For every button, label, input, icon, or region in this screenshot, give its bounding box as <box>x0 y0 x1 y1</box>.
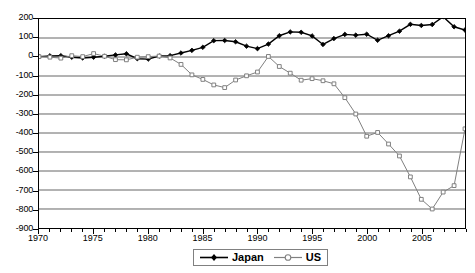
x-tick-label: 2000 <box>347 233 387 243</box>
x-tick-mark <box>345 229 346 232</box>
x-tick-mark <box>389 229 390 232</box>
legend-label-us: US <box>306 252 321 263</box>
x-tick-mark <box>225 229 226 232</box>
x-tick-label: 1985 <box>183 233 223 243</box>
chart-legend: Japan US <box>193 249 328 266</box>
x-tick-mark <box>137 229 138 232</box>
x-tick-mark <box>214 229 215 232</box>
x-tick-mark <box>159 229 160 232</box>
x-tick-mark <box>126 229 127 232</box>
x-tick-mark <box>247 229 248 232</box>
legend-item-japan: Japan <box>199 252 264 263</box>
chart-container: 2001000-100-200-300-400-500-600-700-800-… <box>0 0 475 273</box>
x-tick-mark <box>268 229 269 232</box>
x-tick-mark <box>301 229 302 232</box>
x-tick-label: 1980 <box>128 233 168 243</box>
x-tick-mark <box>378 229 379 232</box>
x-tick-mark <box>400 229 401 232</box>
x-tick-label: 2005 <box>402 233 442 243</box>
legend-item-us: US <box>273 252 321 263</box>
x-tick-label: 1990 <box>237 233 277 243</box>
x-tick-mark <box>82 229 83 232</box>
x-tick-mark <box>466 229 467 232</box>
x-tick-label: 1970 <box>18 233 58 243</box>
x-tick-mark <box>71 229 72 232</box>
x-tick-mark <box>455 229 456 232</box>
x-tick-label: 1995 <box>292 233 332 243</box>
legend-line-japan-icon <box>199 252 229 263</box>
x-tick-mark <box>104 229 105 232</box>
x-tick-mark <box>356 229 357 232</box>
x-tick-mark <box>290 229 291 232</box>
x-tick-mark <box>279 229 280 232</box>
x-tick-mark <box>334 229 335 232</box>
x-tick-mark <box>115 229 116 232</box>
x-axis: 19701975198019851990199520002005 <box>0 0 475 273</box>
x-tick-mark <box>60 229 61 232</box>
x-tick-mark <box>49 229 50 232</box>
x-tick-mark <box>236 229 237 232</box>
x-tick-mark <box>170 229 171 232</box>
x-tick-mark <box>433 229 434 232</box>
x-tick-mark <box>323 229 324 232</box>
x-tick-mark <box>192 229 193 232</box>
x-tick-mark <box>181 229 182 232</box>
x-tick-mark <box>444 229 445 232</box>
legend-line-us-icon <box>273 252 303 263</box>
x-tick-mark <box>411 229 412 232</box>
legend-label-japan: Japan <box>232 252 264 263</box>
x-tick-label: 1975 <box>73 233 113 243</box>
